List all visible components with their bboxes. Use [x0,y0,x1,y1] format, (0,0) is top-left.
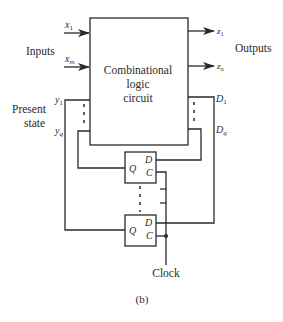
flip-flop-top: Q D C [125,152,156,183]
block-label-line3: circuit [123,92,153,104]
next-state-d1-label: D1 [215,93,227,106]
sequential-circuit-diagram: Combinational logic circuit x1 xm Inputs… [0,0,283,322]
present-state-yq-wire [78,131,125,168]
present-state-label-line1: Present [12,103,47,115]
present-state-y1-wire [65,100,125,230]
ff-top-d: D [144,154,153,165]
block-label-line2: logic [127,78,150,91]
figure-caption: (b) [136,293,149,306]
present-state-y1-label: y1 [54,94,63,107]
flip-flop-bottom: Q D C [125,215,156,246]
block-label-line1: Combinational [104,64,172,76]
ff-top-c: C [146,167,153,178]
clock-label: Clock [152,267,180,279]
ff-bottom-q: Q [129,225,137,236]
outputs-label: Outputs [235,42,272,55]
ff-bottom-d: D [144,217,153,228]
clock-junction-dot [164,234,168,238]
ff-bottom-c: C [146,230,153,241]
output-zn-label: zn [216,61,224,72]
input-xm-label: xm [64,53,75,66]
present-state-label-line2: state [24,117,45,129]
input-x1-label: x1 [64,19,73,32]
present-state-yq-label: yq [54,125,63,138]
output-z1-label: z1 [216,26,224,37]
ff-top-q: Q [129,163,137,174]
next-state-dq-label: Dq [215,124,227,137]
inputs-label: Inputs [26,45,55,58]
clock-wire [156,172,166,265]
